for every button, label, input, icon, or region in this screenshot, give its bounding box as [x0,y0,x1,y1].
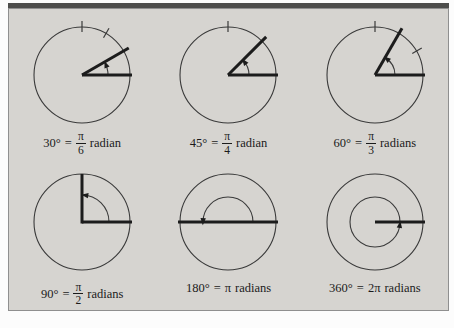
radian-unit: radian [236,136,267,151]
radian-fraction: π 6 [76,130,86,157]
radian-value: 2π [368,281,381,296]
radian-unit: radians [380,136,416,151]
radian-unit: radians [235,281,271,296]
angle-diagram-360-degrees: 360° = 2π radians [302,157,448,310]
fraction-numerator: π [76,130,86,143]
angle-diagram-60-degrees: 60° = π 3 radians [302,9,448,157]
degrees-value: 180° [186,281,210,296]
angle-diagram-30-degrees: 30° = π 6 radian [9,9,155,157]
degrees-value: 45° [190,136,208,151]
angle-label-60-degrees: 60° = π 3 radians [334,130,416,157]
textbook-figure-page: 30° = π 6 radian 45° = π 4 [0,0,454,328]
degrees-value: 30° [43,136,61,151]
angle-diagram-90-degrees: 90° = π 2 radians [9,157,155,310]
equals-sign: = [357,281,364,296]
fraction-numerator: π [73,281,83,294]
fraction-denominator: 3 [368,144,374,157]
fraction-numerator: π [222,130,232,143]
angle-circle-180-degrees [155,162,301,280]
radian-unit: radians [87,287,123,302]
equals-sign: = [355,136,362,151]
figure-frame: 30° = π 6 radian 45° = π 4 [8,8,449,311]
angle-circle-30-degrees [9,15,155,129]
fraction-denominator: 6 [78,144,84,157]
fraction-numerator: π [366,130,376,143]
fraction-denominator: 4 [224,144,230,157]
angle-label-30-degrees: 30° = π 6 radian [43,130,121,157]
angle-label-180-degrees: 180° = π radians [186,281,271,296]
angle-circle-360-degrees [302,162,448,280]
radian-fraction: π 2 [73,281,83,308]
degrees-value: 60° [334,136,352,151]
degrees-value: 360° [329,281,353,296]
equals-sign: = [65,136,72,151]
radian-fraction: π 4 [222,130,232,157]
angle-diagram-180-degrees: 180° = π radians [155,157,301,310]
radian-value: π [225,281,231,296]
degrees-value: 90° [41,287,59,302]
equals-sign: = [214,281,221,296]
angle-label-360-degrees: 360° = 2π radians [329,281,420,296]
equals-sign: = [62,287,69,302]
diagram-row-top: 30° = π 6 radian 45° = π 4 [9,9,448,157]
angle-circle-45-degrees [155,15,301,129]
angle-circle-90-degrees [9,162,155,280]
radian-unit: radians [384,281,420,296]
radian-fraction: π 3 [366,130,376,157]
angle-diagram-45-degrees: 45° = π 4 radian [155,9,301,157]
angle-circle-60-degrees [302,15,448,129]
diagram-row-bottom: 90° = π 2 radians 180° = [9,157,448,310]
radian-unit: radian [90,136,121,151]
fraction-denominator: 2 [76,294,82,307]
equals-sign: = [211,136,218,151]
angle-label-45-degrees: 45° = π 4 radian [190,130,268,157]
angle-label-90-degrees: 90° = π 2 radians [41,281,123,308]
